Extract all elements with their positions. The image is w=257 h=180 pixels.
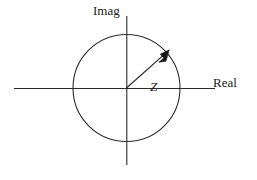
vector-z-label: Z (150, 80, 157, 93)
argand-diagram: Imag Real Z (0, 0, 257, 180)
vector-z-shaft (127, 54, 165, 88)
real-axis-label: Real (213, 76, 237, 89)
imaginary-axis-label: Imag (93, 4, 120, 17)
vector-z-arrowhead (159, 50, 169, 63)
complex-plane-figure (0, 0, 257, 180)
